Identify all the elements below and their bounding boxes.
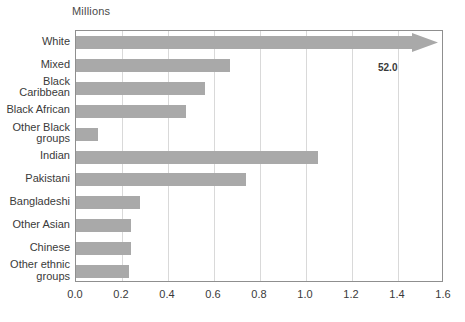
plot-area: 52.0 xyxy=(75,30,443,282)
x-tick-label: 1.2 xyxy=(331,288,371,300)
x-tick-label: 0.4 xyxy=(147,288,187,300)
bar-row xyxy=(76,168,442,191)
category-label: Mixed xyxy=(0,59,70,71)
bar-row xyxy=(76,260,442,283)
bar xyxy=(76,128,98,141)
bar-row xyxy=(76,54,442,77)
category-label: Black Caribbean xyxy=(0,76,70,99)
bar-row: 52.0 xyxy=(76,31,442,54)
category-label: Indian xyxy=(0,150,70,162)
bar-row xyxy=(76,214,442,237)
bar xyxy=(76,265,129,278)
category-label: Other Black groups xyxy=(0,122,70,145)
bar-row xyxy=(76,237,442,260)
category-label: Bangladeshi xyxy=(0,196,70,208)
x-tick-label: 1.0 xyxy=(285,288,325,300)
x-tick-label: 0.0 xyxy=(55,288,95,300)
bar xyxy=(76,59,230,72)
x-tick-label: 0.2 xyxy=(101,288,141,300)
bar-row xyxy=(76,77,442,100)
bar xyxy=(76,105,186,118)
bar-off-scale-arrow xyxy=(76,33,438,52)
category-label: White xyxy=(0,36,70,48)
x-tick-label: 1.6 xyxy=(423,288,463,300)
bar-row xyxy=(76,191,442,214)
axis-unit-label: Millions xyxy=(72,5,110,17)
bar xyxy=(76,82,205,95)
category-label: Chinese xyxy=(0,242,70,254)
bar xyxy=(76,173,246,186)
category-label: Pakistani xyxy=(0,173,70,185)
x-tick-label: 0.8 xyxy=(239,288,279,300)
category-label: Other ethnic groups xyxy=(0,259,70,282)
category-label: Other Asian xyxy=(0,219,70,231)
bar xyxy=(76,219,131,232)
bar xyxy=(76,242,131,255)
bar-chart: Millions 52.0 WhiteMixedBlack CaribbeanB… xyxy=(0,0,465,322)
x-tick-label: 0.6 xyxy=(193,288,233,300)
bar xyxy=(76,151,318,164)
x-tick-label: 1.4 xyxy=(377,288,417,300)
bar-row xyxy=(76,146,442,169)
category-label: Black African xyxy=(0,104,70,116)
bar-row xyxy=(76,100,442,123)
bar-row xyxy=(76,123,442,146)
bar xyxy=(76,196,140,209)
